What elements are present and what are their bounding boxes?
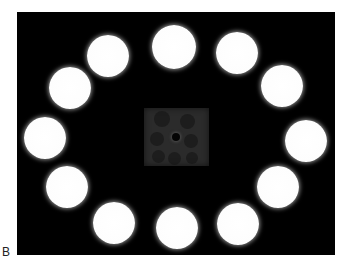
well-circle (261, 65, 303, 107)
well-circle (49, 67, 91, 109)
well-circle (285, 120, 327, 162)
image-panel (17, 12, 335, 255)
faint-spot (184, 134, 198, 148)
faint-spot (168, 152, 181, 165)
well-circle (24, 117, 66, 159)
faint-spot (186, 152, 198, 164)
well-circle (87, 35, 129, 77)
faint-spot (180, 114, 195, 129)
panel-label: B (2, 245, 10, 259)
well-circle (152, 25, 196, 69)
center-dot (172, 133, 180, 141)
faint-spot (152, 150, 165, 163)
well-circle (156, 207, 198, 249)
well-circle (216, 32, 258, 74)
faint-spot (154, 111, 170, 127)
well-circle (257, 166, 299, 208)
faint-spot (150, 132, 164, 146)
well-circle (93, 202, 135, 244)
well-circle (46, 166, 88, 208)
well-circle (217, 203, 259, 245)
